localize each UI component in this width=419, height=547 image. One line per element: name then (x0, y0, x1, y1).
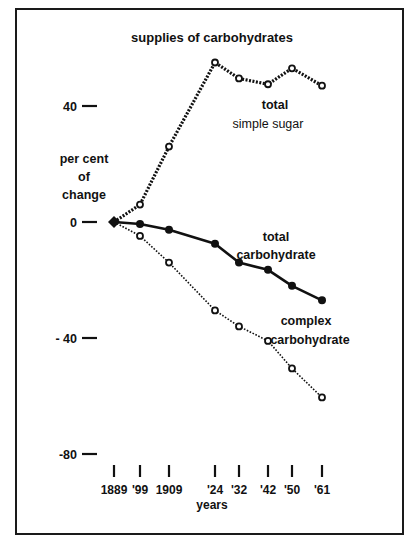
data-point (289, 65, 295, 71)
y-tick-label: 0 (70, 216, 77, 230)
x-axis-ticks: 1889'991909'24'32'42'50'61 (101, 465, 331, 497)
svg-text:total: total (262, 98, 288, 112)
y-axis-label-line-1: per cent (60, 152, 109, 166)
svg-text:carbohydrate: carbohydrate (270, 333, 349, 347)
x-tick-label: 1889 (101, 483, 128, 497)
x-tick-label: '50 (284, 483, 301, 497)
x-tick-label: '24 (207, 483, 224, 497)
y-axis-label-line-3: change (62, 188, 106, 202)
data-point (212, 307, 218, 313)
series-total-simple-sugar (114, 60, 325, 223)
y-tick-label: 40 (63, 100, 77, 114)
series-label-simple-sugar: total simple sugar (233, 98, 304, 131)
data-point (318, 296, 326, 304)
data-point (166, 260, 172, 266)
series-label-complex-carbohydrate: complex carbohydrate (270, 314, 349, 347)
line-chart: supplies of carbohydrates per cent of ch… (0, 0, 419, 547)
series-lines (108, 60, 326, 401)
data-point (136, 220, 144, 228)
x-tick-label: '42 (260, 483, 277, 497)
svg-text:total: total (263, 230, 289, 244)
data-point (211, 240, 219, 248)
y-tick-label: -80 (59, 448, 77, 462)
y-tick-label: - 40 (55, 332, 77, 346)
data-point (236, 323, 242, 329)
data-point (137, 233, 143, 239)
chart-title: supplies of carbohydrates (131, 30, 293, 45)
x-tick-label: 1909 (156, 483, 183, 497)
data-point (236, 75, 242, 81)
svg-text:carbohydrate: carbohydrate (236, 248, 315, 262)
data-point (319, 394, 325, 400)
x-tick-label: '99 (132, 483, 149, 497)
data-point (319, 83, 325, 89)
data-point (264, 266, 272, 274)
y-axis-label-line-2: of (78, 170, 91, 184)
data-point (265, 81, 271, 87)
series-total-carbohydrate (114, 220, 326, 304)
x-tick-label: '61 (314, 483, 331, 497)
data-point (166, 144, 172, 150)
data-point (288, 282, 296, 290)
data-point (212, 60, 218, 66)
y-axis-label: per cent of change (60, 152, 109, 202)
data-point (137, 202, 143, 208)
svg-text:simple sugar: simple sugar (233, 117, 304, 131)
svg-text:complex: complex (281, 314, 332, 328)
x-tick-label: '32 (231, 483, 248, 497)
origin-marker (108, 216, 120, 228)
data-point (289, 365, 295, 371)
x-axis-label: years (196, 498, 228, 512)
data-point (165, 226, 173, 234)
series-label-total-carbohydrate: total carbohydrate (236, 230, 315, 262)
